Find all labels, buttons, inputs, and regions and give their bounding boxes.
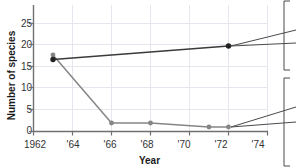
y-tick-marks bbox=[29, 24, 33, 132]
plot-area bbox=[0, 0, 296, 168]
bracket-bottom bbox=[284, 78, 290, 166]
chart-figure: Number of species 25 20 15 10 5 0 1962 '… bbox=[0, 0, 296, 168]
bracket-top bbox=[284, 1, 290, 70]
